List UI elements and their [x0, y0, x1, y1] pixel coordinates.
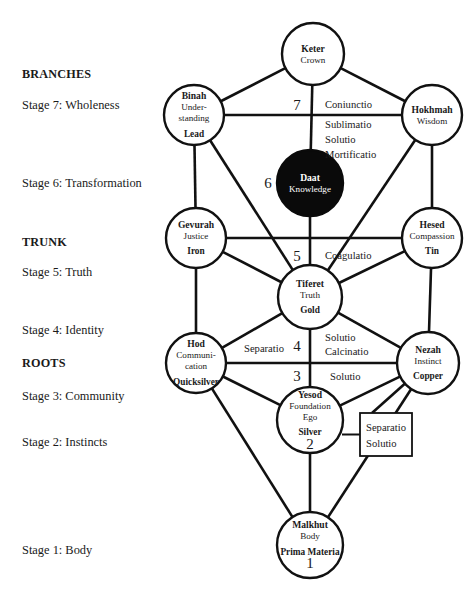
tree-of-life-diagram: BRANCHESStage 7: WholenessStage 6: Trans… — [0, 0, 472, 589]
sefirah-nezah[interactable]: NezahInstinctCopper — [397, 332, 459, 394]
stage-number-6: 6 — [264, 175, 272, 191]
operation-label: Mortificatio — [325, 149, 376, 160]
sefirah-subtitle: Truth — [300, 290, 320, 300]
sefirah-name: Malkhut — [292, 519, 329, 530]
sefirah-tiferet[interactable]: TiferetTruthGold — [278, 265, 342, 329]
sefirah-subtitle: Instinct — [414, 356, 442, 366]
stage-number-3: 3 — [293, 368, 301, 384]
sefirah-hod[interactable]: HodCommuni-cationQuicksilver — [166, 333, 226, 393]
sefirah-binah[interactable]: BinahUnder-standingLead — [164, 85, 224, 145]
sefirah-name: Keter — [301, 43, 325, 54]
operation-box-line: Separatio — [366, 422, 406, 433]
sefirah-name: Hesed — [419, 219, 445, 230]
sefirah-name: Yesod — [298, 389, 323, 400]
sefirah-subtitle: Communi- — [176, 350, 215, 360]
sefirah-subtitle: cation — [185, 361, 208, 371]
sefirah-subtitle: Knowledge — [289, 184, 331, 194]
sefirah-subtitle: Wisdom — [417, 116, 447, 126]
sefirah-malkhut[interactable]: MalkhutBodyPrima Materia1 — [277, 512, 343, 578]
sefirah-metal: Copper — [413, 371, 443, 381]
sefirah-metal: Iron — [187, 246, 205, 256]
tree-of-life-svg: SeparatioSolutio KeterCrownBinahUnder-st… — [0, 0, 472, 589]
sefirah-subtitle: Compassion — [410, 231, 455, 241]
sefirah-name: Gevurah — [178, 219, 215, 230]
tree-path-binah-gevurah — [194, 144, 195, 209]
sefirah-name: Hod — [187, 338, 205, 349]
sefirah-name: Daat — [300, 172, 321, 183]
operation-label: Solutio — [330, 371, 361, 382]
sefirah-subtitle: Crown — [301, 55, 326, 65]
operation-box-layer: SeparatioSolutio — [342, 383, 412, 456]
sefirah-stage-number: 2 — [306, 436, 314, 452]
sefirah-name: Nezah — [415, 344, 441, 355]
sefirah-hokhmah[interactable]: HokhmahWisdom — [402, 85, 462, 145]
operation-label: Separatio — [244, 343, 284, 354]
sefirah-subtitle: Justice — [184, 231, 209, 241]
stage-number-5: 5 — [293, 248, 301, 264]
stage-numbers-layer: 76543 — [264, 97, 301, 384]
stage-number-7: 7 — [293, 97, 301, 113]
sefirah-name: Tiferet — [296, 278, 325, 289]
sefirah-gevurah[interactable]: GevurahJusticeIron — [166, 208, 226, 268]
operation-label: Solutio — [325, 332, 356, 343]
sefirah-subtitle: Body — [300, 531, 320, 541]
tree-path-hokhmah-keter — [340, 68, 406, 102]
sefirah-metal: Tin — [425, 246, 440, 256]
tree-path-gevurah-tiferet — [222, 251, 283, 282]
sefirah-metal: Lead — [184, 129, 205, 139]
operation-label: Coniunctio — [325, 99, 372, 110]
sefirah-subtitle: Under- — [181, 102, 207, 112]
sefirah-subtitle: Foundation — [289, 401, 331, 411]
sefirah-subtitle: Ego — [303, 412, 318, 422]
operation-label: Solutio — [325, 134, 356, 145]
tree-path-hesed-nezah — [429, 267, 431, 333]
operation-box — [360, 413, 412, 456]
sefirah-yesod[interactable]: YesodFoundationEgoSilver2 — [277, 387, 343, 453]
operation-box-line: Solutio — [366, 438, 397, 449]
stage-number-4: 4 — [293, 338, 301, 354]
operation-label: Calcinatio — [325, 346, 369, 357]
sefirah-name: Hokhmah — [411, 104, 453, 115]
tree-path-binah-keter — [220, 68, 286, 102]
sefirah-metal: Gold — [300, 305, 320, 315]
operation-label: Sublimatio — [325, 119, 372, 130]
sefirah-metal: Quicksilver — [173, 377, 219, 387]
operation-label: Coagulatio — [325, 250, 372, 261]
tree-path-keter-daat — [311, 84, 313, 151]
sefirah-stage-number: 1 — [306, 555, 314, 571]
sefirah-name: Binah — [182, 90, 207, 101]
sefirah-hesed[interactable]: HesedCompassionTin — [402, 208, 462, 268]
tree-path-hod-yesod — [222, 376, 281, 406]
sefirah-keter[interactable]: KeterCrown — [282, 23, 344, 85]
sefirah-subtitle: standing — [179, 113, 210, 123]
